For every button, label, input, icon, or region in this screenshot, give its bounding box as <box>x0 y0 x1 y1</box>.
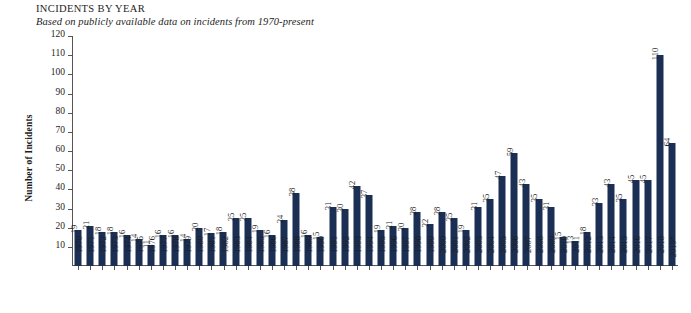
x-axis-tick-label: 1976 <box>147 236 157 276</box>
bar-slot[interactable]: 19 <box>375 36 387 266</box>
x-axis-tick-label: 2004 <box>486 236 496 276</box>
bar-value-label: 19 <box>251 224 260 233</box>
x-axis-tick-label: 1990 <box>316 236 326 276</box>
x-axis-tick-label: 1974 <box>123 236 133 276</box>
bar-slot[interactable]: 14 <box>181 36 193 266</box>
y-axis-title-text: Number of Incidents <box>24 93 34 223</box>
bar-slot[interactable]: 35 <box>617 36 629 266</box>
x-axis-tick-label: 2017 <box>644 236 654 276</box>
x-axis-tick-label: 1996 <box>389 236 399 276</box>
bar-slot[interactable]: 45 <box>630 36 642 266</box>
bar-slot[interactable]: 45 <box>642 36 654 266</box>
x-axis-tick-label: 1991 <box>329 236 339 276</box>
x-axis-tick-label: 2002 <box>462 236 472 276</box>
bar-value-label: 18 <box>93 226 102 235</box>
bar-slot[interactable]: 35 <box>533 36 545 266</box>
bar-value-label: 28 <box>433 207 442 216</box>
bar-slot[interactable]: 28 <box>436 36 448 266</box>
bar-slot[interactable]: 43 <box>605 36 617 266</box>
bar-value-label: 47 <box>493 171 502 180</box>
bar-value-label: 19 <box>372 224 381 233</box>
bar-slot[interactable]: 16 <box>120 36 132 266</box>
bar-value-label: 25 <box>239 213 248 222</box>
bar-slot[interactable]: 110 <box>654 36 666 266</box>
bar-value-label: 21 <box>81 221 90 230</box>
bar-slot[interactable]: 43 <box>520 36 532 266</box>
x-axis-tick-label: 2012 <box>583 236 593 276</box>
y-axis-tick-label: 30 <box>56 202 66 212</box>
bar-value-label: 42 <box>348 180 357 189</box>
bar-slot[interactable]: 42 <box>351 36 363 266</box>
bar-value-label: 28 <box>408 207 417 216</box>
x-axis-tick-label: 1998 <box>413 236 423 276</box>
x-axis-tick-label: 1997 <box>401 236 411 276</box>
bar-slot[interactable]: 14 <box>133 36 145 266</box>
bar-slot[interactable]: 22 <box>423 36 435 266</box>
bar-value-label: 20 <box>396 222 405 231</box>
x-axis-tick-label: 1992 <box>341 236 351 276</box>
bar-slot[interactable]: 59 <box>508 36 520 266</box>
bar-slot[interactable]: 28 <box>411 36 423 266</box>
bar-slot[interactable]: 24 <box>278 36 290 266</box>
x-axis-tick-label: 1972 <box>98 236 108 276</box>
bar-value-label: 35 <box>530 194 539 203</box>
x-axis-tick-label: 2013 <box>595 236 605 276</box>
x-axis-tick-label: 1994 <box>365 236 375 276</box>
bar-value-label: 35 <box>614 194 623 203</box>
bar-slot[interactable]: 21 <box>387 36 399 266</box>
bar-slot[interactable]: 31 <box>472 36 484 266</box>
bar-slot[interactable]: 18 <box>581 36 593 266</box>
bar-slot[interactable]: 25 <box>230 36 242 266</box>
bar-slot[interactable]: 20 <box>399 36 411 266</box>
bar-slot[interactable]: 18 <box>217 36 229 266</box>
x-axis-tick-label: 2005 <box>498 236 508 276</box>
y-axis-tick-label: 90 <box>56 87 66 97</box>
x-axis-tick-label: 1988 <box>292 236 302 276</box>
bar-value-label: 18 <box>214 226 223 235</box>
bar-slot[interactable]: 33 <box>593 36 605 266</box>
x-axis-tick-label: 2000 <box>438 236 448 276</box>
bar-slot[interactable]: 64 <box>666 36 678 266</box>
x-axis-tick-label: 2015 <box>619 236 629 276</box>
x-axis-tick-label: 1977 <box>159 236 169 276</box>
y-axis-tick-label: 20 <box>56 221 66 231</box>
x-axis-tick-label: 1975 <box>135 236 145 276</box>
bar-slot[interactable]: 35 <box>484 36 496 266</box>
x-axis-tick-label: 2008 <box>535 236 545 276</box>
bar-slot[interactable]: 16 <box>266 36 278 266</box>
bar-slot[interactable]: 31 <box>327 36 339 266</box>
bar-slot[interactable]: 16 <box>169 36 181 266</box>
bar-slot[interactable]: 19 <box>72 36 84 266</box>
y-axis-tick-label: 10 <box>56 240 66 250</box>
bar-value-label: 35 <box>481 194 490 203</box>
y-axis-tick-label: 100 <box>51 67 65 77</box>
x-axis-tick-label: 2016 <box>632 236 642 276</box>
bar-value-label: 21 <box>384 221 393 230</box>
bar-slot[interactable]: 15 <box>557 36 569 266</box>
bar-value-label: 20 <box>190 222 199 231</box>
bar-value-label: 18 <box>578 226 587 235</box>
bar-slot[interactable]: 19 <box>460 36 472 266</box>
bar-value-label: 31 <box>542 201 551 210</box>
bar[interactable]: 110 <box>656 55 663 266</box>
bar-slot[interactable]: 30 <box>339 36 351 266</box>
bar-series: 1921181816141116161420171825251916243816… <box>72 36 678 266</box>
page-title: INCIDENTS BY YEAR <box>36 2 314 15</box>
bar-value-label: 59 <box>505 148 514 157</box>
bar-slot[interactable]: 15 <box>314 36 326 266</box>
bar-value-label: 37 <box>360 190 369 199</box>
x-axis-tick-label: 1987 <box>280 236 290 276</box>
bar-value-label: 43 <box>602 178 611 187</box>
x-axis-tick-label: 2001 <box>450 236 460 276</box>
bar-value-label: 24 <box>275 215 284 224</box>
y-axis-tick-label: 50 <box>56 163 66 173</box>
x-axis-tick-label: 1984 <box>244 236 254 276</box>
bar-value-label: 43 <box>517 178 526 187</box>
x-axis-tick-label: 1993 <box>353 236 363 276</box>
bar-value-label: 64 <box>663 138 672 147</box>
y-axis-title: Number of Incidents <box>24 0 34 95</box>
title-block: INCIDENTS BY YEAR Based on publicly avai… <box>36 2 314 29</box>
x-axis-tick-label: 1999 <box>426 236 436 276</box>
y-axis-tick-label: 40 <box>56 182 66 192</box>
x-axis-tick-label: 1986 <box>268 236 278 276</box>
